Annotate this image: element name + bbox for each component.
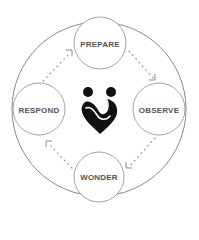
node-label-observe: OBSERVE <box>139 106 179 115</box>
arrow-respond-to-prepare <box>43 50 72 81</box>
node-label-respond: RESPOND <box>19 106 60 115</box>
node-label-wonder: WONDER <box>80 173 118 182</box>
heart-people-logo-icon <box>82 87 118 134</box>
arrow-observe-to-wonder <box>126 138 155 168</box>
node-label-prepare: PREPARE <box>80 40 119 49</box>
arrow-prepare-to-observe <box>129 51 155 80</box>
arrow-wonder-to-respond <box>46 141 72 168</box>
